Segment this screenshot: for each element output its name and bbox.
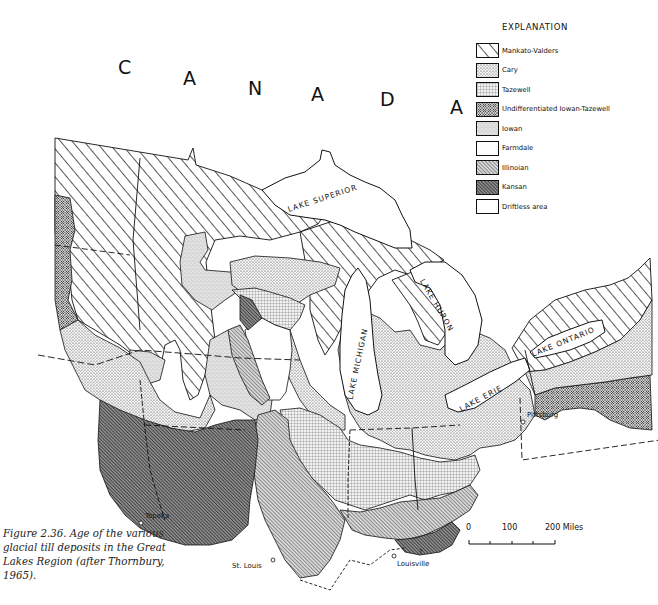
city-marker-pittsburg	[521, 420, 525, 424]
swatch-blank-icon	[476, 199, 499, 214]
country-label-letter: N	[248, 77, 262, 99]
scale-tick-100: 100	[502, 523, 517, 532]
country-label-letter: C	[118, 56, 131, 78]
country-label-letter: D	[380, 88, 395, 110]
scale-tick-200: 200 Miles	[545, 523, 583, 532]
legend-label: Illinoian	[502, 164, 529, 172]
legend-label: Kansan	[502, 183, 527, 191]
legend: EXPLANATION Mankato-Valders Cary Tazewel…	[476, 22, 658, 217]
swatch-dark-hatch-icon	[476, 180, 499, 195]
city-label-st-louis: St. Louis	[232, 562, 262, 570]
legend-label: Iowan	[502, 125, 522, 133]
legend-item-iowan: Iowan	[476, 119, 658, 139]
swatch-blank-icon	[476, 141, 499, 156]
swatch-wide-hatch-icon	[476, 43, 499, 58]
legend-label: Farmdale	[502, 144, 533, 152]
scale-bar-line	[469, 540, 555, 544]
country-label-letter: A	[450, 96, 463, 118]
legend-title: EXPLANATION	[502, 22, 658, 32]
figure-caption: Figure 2.36. Age of the various glacial …	[3, 527, 193, 583]
scale-tick-0: 0	[466, 523, 471, 532]
swatch-stipple-icon	[476, 63, 499, 78]
city-label-pittsburg: Pittsburg	[527, 411, 558, 419]
legend-item-driftless: Driftless area	[476, 197, 658, 217]
legend-label: Cary	[502, 66, 518, 74]
legend-item-farmdale: Farmdale	[476, 139, 658, 159]
legend-label: Tazewell	[502, 86, 530, 94]
swatch-light-stipple-icon	[476, 121, 499, 136]
legend-item-kansan: Kansan	[476, 178, 658, 198]
swatch-fine-hatch-icon	[476, 160, 499, 175]
legend-label: Driftless area	[502, 203, 547, 211]
legend-item-mankato-valders: Mankato-Valders	[476, 41, 658, 61]
legend-item-tazewell: Tazewell	[476, 80, 658, 100]
swatch-grid-icon	[476, 82, 499, 97]
legend-label: Mankato-Valders	[502, 47, 558, 55]
country-label-letter: A	[311, 83, 324, 105]
swatch-crosshatch-icon	[476, 102, 499, 117]
uncertain-marker: ?	[419, 548, 423, 556]
legend-item-illinoian: Illinoian	[476, 158, 658, 178]
city-label-louisville: Louisville	[397, 560, 429, 568]
city-marker-louisville	[392, 554, 396, 558]
legend-label: Undifferentiated Iowan-Tazewell	[502, 105, 610, 113]
city-marker-st-louis	[271, 558, 275, 562]
legend-item-undifferentiated: Undifferentiated Iowan-Tazewell	[476, 100, 658, 120]
city-label-topeka: Topeka	[145, 512, 169, 520]
city-marker-topeka	[139, 521, 143, 525]
country-label-letter: A	[183, 67, 196, 89]
legend-item-cary: Cary	[476, 61, 658, 81]
